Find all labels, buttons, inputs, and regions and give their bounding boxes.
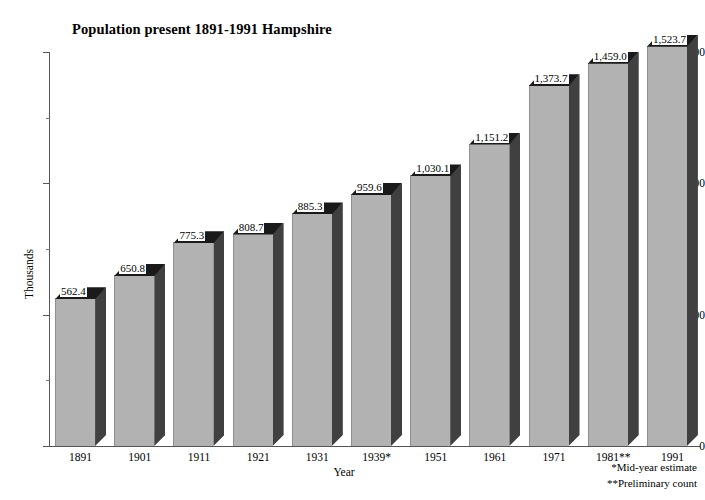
bar-value-label: 1,151.2 [474,132,509,143]
bar-side-face [154,264,165,446]
bar [529,74,580,446]
x-axis-tick-label: 1971 [543,451,566,463]
x-axis-tick-label: 1951 [424,451,447,463]
bar-side-face [273,223,284,446]
footnote-mid-year-estimate: *Mid-year estimate [611,461,697,473]
plot-area: Thousands 05001,0001,500 562.4650.8775.3… [0,0,705,500]
bar-front-face [114,275,154,446]
y-axis-tick [43,315,50,316]
bar-value-label: 1,373.7 [534,73,569,84]
bar-front-face [233,234,273,446]
y-axis-tick [43,52,50,53]
bar-front-face [173,242,213,446]
bar-side-face [687,35,698,446]
bar-value-label: 1,030.1 [415,163,450,174]
bar [233,223,284,446]
footnote-preliminary-count: **Preliminary count [607,477,697,489]
bar-side-face [213,231,224,446]
bar-side-face [628,52,639,446]
bar-side-face [391,183,402,446]
bar [292,202,343,446]
bar [410,164,461,446]
y-axis-tick [43,446,50,447]
bar-value-label: 959.6 [356,182,383,193]
bar-value-label: 562.4 [60,286,87,297]
y-axis-minor-tick [46,249,50,250]
y-axis-minor-tick [46,380,50,381]
bar-front-face [529,85,569,446]
y-axis-title: Thousands [23,229,35,319]
bar [351,183,402,446]
bar-front-face [292,213,332,446]
chart-page: Population present 1891-1991 Hampshire T… [0,0,705,500]
bar [173,231,224,446]
x-axis-tick-label: 1931 [306,451,329,463]
bar-side-face [509,133,520,446]
bar-front-face [351,194,391,446]
bar-side-face [450,164,461,446]
bar-front-face [469,144,509,446]
bar-side-face [569,74,580,446]
bar-value-label: 650.8 [119,263,146,274]
bar-value-label: 885.3 [297,201,324,212]
bar-value-label: 1,459.0 [593,51,628,62]
bar-front-face [410,175,450,446]
bar [588,52,639,446]
x-axis-tick-label: 1901 [128,451,151,463]
bar-side-face [332,202,343,446]
x-axis-tick-label: 1911 [188,451,211,463]
x-axis-tick-label: 1939* [362,451,391,463]
bar-front-face [647,46,687,446]
bar-value-label: 775.3 [178,230,205,241]
bar-front-face [588,63,628,446]
bar-value-label: 1,523.7 [652,34,687,45]
x-axis-tick-label: 1961 [483,451,506,463]
bar-value-label: 808.7 [238,222,265,233]
bar [114,264,165,446]
y-axis-minor-tick [46,118,50,119]
x-axis-title: Year [333,466,354,478]
bar [469,133,520,446]
x-axis-tick-label: 1891 [69,451,92,463]
bar [55,287,106,446]
x-axis-line [49,446,700,447]
x-axis-tick-label: 1921 [247,451,270,463]
bar-side-face [95,287,106,446]
y-axis-tick [43,183,50,184]
bar-front-face [55,298,95,446]
bar [647,35,698,446]
